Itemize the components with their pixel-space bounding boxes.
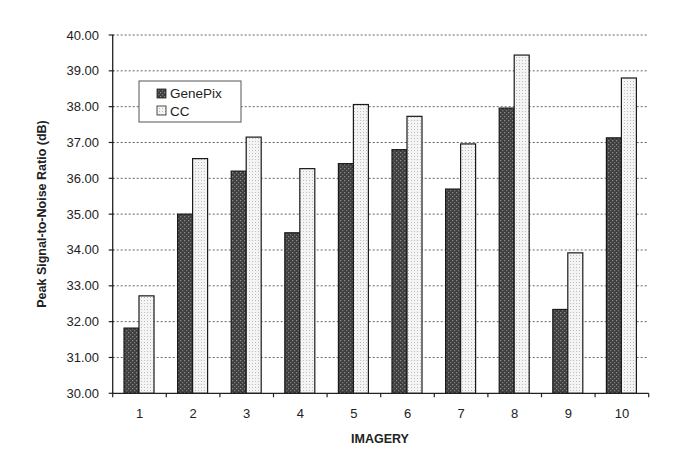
y-tick-label: 30.00 — [66, 386, 99, 401]
legend: GenePix CC — [139, 81, 241, 122]
x-tick-label: 3 — [243, 406, 250, 421]
x-tick-label: 6 — [404, 406, 411, 421]
y-tick-label: 35.00 — [66, 207, 99, 222]
x-tick-label: 5 — [350, 406, 357, 421]
legend-swatch-genepix — [157, 89, 166, 98]
x-axis-title: IMAGERY — [351, 432, 410, 446]
bar-genepix-1 — [124, 328, 139, 393]
bar-cc-2 — [193, 159, 208, 394]
bar-chart: 30.0031.0032.0033.0034.0035.0036.0037.00… — [0, 0, 683, 470]
y-tick-label: 37.00 — [66, 135, 99, 150]
bar-genepix-6 — [392, 150, 407, 394]
y-tick-label: 38.00 — [66, 99, 99, 114]
bar-genepix-9 — [553, 309, 568, 393]
bar-cc-5 — [353, 105, 368, 394]
bar-genepix-3 — [231, 171, 246, 393]
y-tick-label: 34.00 — [66, 242, 99, 257]
bar-genepix-4 — [285, 233, 300, 394]
bar-cc-10 — [621, 78, 636, 393]
x-tick-label: 9 — [565, 406, 572, 421]
x-tick-label: 4 — [297, 406, 304, 421]
bar-cc-9 — [568, 253, 583, 393]
bar-cc-6 — [407, 116, 422, 393]
x-tick-label: 10 — [615, 406, 629, 421]
bar-cc-4 — [300, 169, 315, 394]
x-tick-label: 2 — [189, 406, 196, 421]
y-tick-label: 31.00 — [66, 350, 99, 365]
bar-cc-1 — [139, 296, 154, 393]
legend-label-cc: CC — [170, 104, 190, 119]
bar-cc-8 — [514, 55, 529, 393]
y-tick-label: 32.00 — [66, 314, 99, 329]
bar-genepix-10 — [606, 138, 621, 393]
bar-genepix-7 — [446, 189, 461, 393]
y-tick-label: 33.00 — [66, 278, 99, 293]
x-tick-label: 7 — [457, 406, 464, 421]
x-tick-labels: 12345678910 — [136, 406, 629, 421]
x-tick-label: 1 — [136, 406, 143, 421]
bar-genepix-8 — [499, 108, 514, 393]
y-tick-label: 40.00 — [66, 28, 99, 43]
y-tick-label: 36.00 — [66, 171, 99, 186]
bar-cc-7 — [461, 144, 476, 393]
legend-swatch-cc — [157, 106, 166, 115]
y-tick-label: 39.00 — [66, 63, 99, 78]
x-tick-label: 8 — [511, 406, 518, 421]
bar-genepix-2 — [178, 214, 193, 393]
y-tick-labels: 30.0031.0032.0033.0034.0035.0036.0037.00… — [66, 28, 99, 401]
bar-genepix-5 — [338, 164, 353, 394]
y-axis-title: Peak Signal-to-Noise Ratio (dB) — [35, 120, 49, 308]
bar-cc-3 — [246, 137, 261, 393]
legend-label-genepix: GenePix — [170, 86, 222, 101]
